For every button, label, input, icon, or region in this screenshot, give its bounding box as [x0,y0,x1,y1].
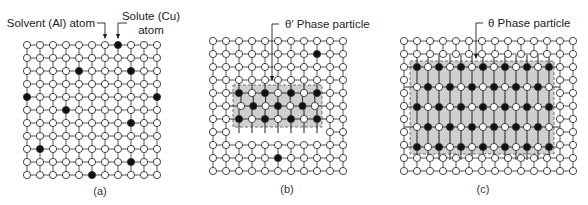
solvent-al-atom [209,102,216,109]
solvent-al-atom [222,102,229,109]
solvent-al-atom [153,132,160,139]
solvent-al-atom [49,41,56,48]
solute-cu-atom [413,63,420,70]
lattice-atoms [209,37,346,174]
solvent-al-atom [435,123,442,130]
solvent-al-atom [261,50,268,57]
solvent-al-atom [339,167,346,174]
solvent-al-atom [339,102,346,109]
solvent-al-atom [140,93,147,100]
solute-cu-atom [235,89,242,96]
solvent-al-atom [426,50,433,57]
solvent-al-atom [287,63,294,70]
solvent-al-atom [326,50,333,57]
solvent-al-atom [153,67,160,74]
solvent-al-atom [62,80,69,87]
solvent-al-atom [88,41,95,48]
panel-caption: (c) [477,183,490,195]
solvent-al-atom [424,63,431,70]
annotation-label: θ Phase particle [488,17,570,29]
solvent-al-atom [222,76,229,83]
solvent-al-atom [88,67,95,74]
solvent-al-atom [300,63,307,70]
solvent-al-atom [62,145,69,152]
solvent-al-atom [36,158,43,165]
solvent-al-atom [88,132,95,139]
solvent-al-atom [261,37,268,44]
solute-cu-atom [274,102,281,109]
solvent-al-atom [300,76,307,83]
solvent-al-atom [326,141,333,148]
solute-cu-atom [313,89,320,96]
solvent-al-atom [114,158,121,165]
solvent-al-atom [49,158,56,165]
solute-cu-atom [534,123,541,130]
solvent-al-atom [23,145,30,152]
solute-cu-atom [413,143,420,150]
solvent-al-atom [274,141,281,148]
solvent-al-atom [49,54,56,61]
solvent-al-atom [413,167,420,174]
solute-cu-atom [413,103,420,110]
solvent-al-atom [543,154,550,161]
solvent-al-atom [23,171,30,178]
solvent-al-atom [523,123,530,130]
solvent-al-atom [114,145,121,152]
solvent-al-atom [23,41,30,48]
panel-c-theta-particle: θ Phase particle(c) [400,17,576,195]
solvent-al-atom [569,76,576,83]
precipitation-diagram: Solvent (Al) atomSolute (Cu)atom(a) θ′ P… [0,0,588,205]
solvent-al-atom [478,167,485,174]
solvent-al-atom [300,154,307,161]
solute-cu-atom [457,103,464,110]
solvent-al-atom [569,141,576,148]
solvent-al-atom [248,63,255,70]
solvent-al-atom [424,143,431,150]
solvent-al-atom [468,143,475,150]
solvent-al-atom [339,128,346,135]
solvent-al-atom [36,171,43,178]
solvent-al-atom [311,102,318,109]
solvent-al-atom [36,41,43,48]
solvent-al-atom [400,37,407,44]
solute-cu-atom [479,143,486,150]
solvent-al-atom [75,171,82,178]
solvent-al-atom [36,54,43,61]
solvent-al-atom [101,145,108,152]
solvent-al-atom [62,41,69,48]
solvent-al-atom [446,143,453,150]
panel-caption: (a) [93,185,106,197]
solvent-al-atom [153,106,160,113]
solvent-al-atom [504,50,511,57]
solvent-al-atom [326,128,333,135]
solvent-al-atom [468,63,475,70]
solvent-al-atom [426,167,433,174]
solvent-al-atom [534,63,541,70]
solute-cu-atom [127,67,134,74]
solvent-al-atom [49,106,56,113]
solvent-al-atom [556,128,563,135]
solvent-al-atom [101,80,108,87]
solvent-al-atom [49,145,56,152]
solvent-al-atom [465,167,472,174]
solvent-al-atom [490,103,497,110]
solvent-al-atom [222,50,229,57]
solvent-al-atom [153,41,160,48]
solute-cu-atom [501,143,508,150]
solvent-al-atom [88,158,95,165]
solvent-al-atom [222,141,229,148]
solute-cu-atom [545,143,552,150]
solvent-al-atom [339,141,346,148]
solvent-al-atom [49,171,56,178]
solvent-al-atom [523,83,530,90]
annotation-callout: Solvent (Al) atom [7,17,107,39]
solvent-al-atom [140,80,147,87]
solvent-al-atom [274,50,281,57]
solvent-al-atom [153,119,160,126]
solvent-al-atom [517,167,524,174]
solvent-al-atom [287,50,294,57]
solvent-al-atom [569,102,576,109]
annotation-callout: Solute (Cu)atom [116,10,180,39]
solute-cu-atom [313,115,320,122]
solvent-al-atom [300,37,307,44]
